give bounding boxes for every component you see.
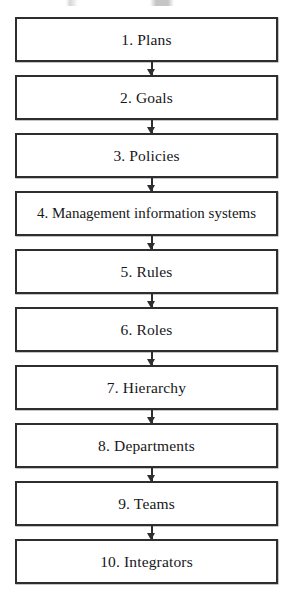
flowchart-node-9-label: 9. Teams — [114, 496, 179, 512]
flowchart-node-8-label: 8. Departments — [94, 438, 199, 454]
connector-stem — [151, 294, 153, 307]
flowchart-connector-2-3 — [146, 120, 159, 133]
flowchart-connector-9-10 — [146, 526, 159, 539]
flowchart-connector-3-4 — [146, 178, 159, 191]
flowchart-connector-7-8 — [146, 410, 159, 423]
flowchart-diagram: 1. Plans 2. Goals 3. Policies 4. Managem… — [0, 0, 296, 608]
flowchart-connector-6-7 — [146, 352, 159, 365]
flowchart-node-10: 10. Integrators — [15, 539, 278, 584]
flowchart-node-3: 3. Policies — [15, 133, 278, 178]
flowchart-node-10-label: 10. Integrators — [96, 554, 197, 570]
flowchart-node-9: 9. Teams — [15, 481, 278, 526]
flowchart-node-5-label: 5. Rules — [116, 264, 176, 280]
flowchart-node-4-label: 4. Management information systems — [33, 206, 260, 221]
flowchart-connector-1-2 — [146, 62, 159, 75]
cropped-caption-artifact — [0, 0, 296, 6]
flowchart-node-1-label: 1. Plans — [117, 32, 175, 48]
flowchart-node-6-label: 6. Roles — [116, 322, 176, 338]
flowchart-node-8: 8. Departments — [15, 423, 278, 468]
flowchart-node-2-label: 2. Goals — [116, 90, 177, 106]
flowchart-connector-5-6 — [146, 294, 159, 307]
flowchart-node-3-label: 3. Policies — [109, 148, 183, 164]
connector-stem — [151, 468, 153, 481]
flowchart-connector-4-5 — [146, 236, 159, 249]
flowchart-node-5: 5. Rules — [15, 249, 278, 294]
flowchart-node-7-label: 7. Hierarchy — [103, 380, 190, 396]
connector-stem — [151, 352, 153, 365]
flowchart-node-1: 1. Plans — [15, 17, 278, 62]
connector-stem — [151, 178, 153, 191]
connector-stem — [151, 236, 153, 249]
flowchart-node-6: 6. Roles — [15, 307, 278, 352]
connector-stem — [151, 526, 153, 539]
flowchart-connector-8-9 — [146, 468, 159, 481]
connector-stem — [151, 120, 153, 133]
flowchart-node-7: 7. Hierarchy — [15, 365, 278, 410]
connector-stem — [151, 62, 153, 75]
connector-stem — [151, 410, 153, 423]
flowchart-node-2: 2. Goals — [15, 75, 278, 120]
flowchart-node-4: 4. Management information systems — [15, 191, 278, 236]
